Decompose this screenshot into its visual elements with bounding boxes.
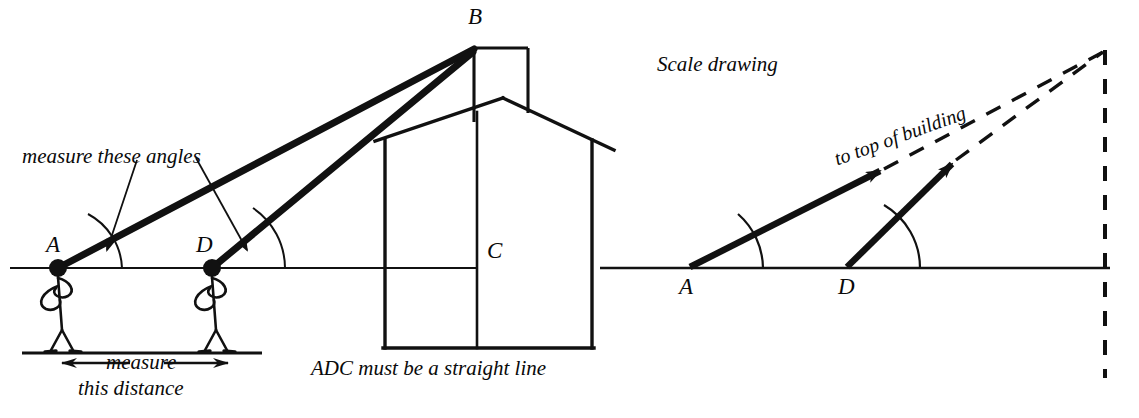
sight-line-D-to-B [212, 52, 473, 268]
scale-dashed-extension-D [956, 52, 1103, 160]
annotation-adc-straight-line: ADC must be a straight line [311, 356, 546, 381]
observer-D-leg-right [216, 330, 228, 352]
annotation-measure-word: measure [106, 350, 176, 375]
point-label-A: A [46, 232, 60, 258]
annotation-measure-these-angles: measure these angles [22, 144, 201, 169]
observer-D-arm-low [195, 286, 214, 310]
scale-drawing-title: Scale drawing [657, 52, 778, 77]
scale-point-label-D: D [838, 274, 855, 300]
observer-figure-D [195, 259, 235, 352]
observer-A-leg-left [50, 330, 62, 352]
observer-figure-A [41, 259, 81, 352]
observer-A-head [49, 259, 67, 277]
right-scale-drawing [600, 50, 1110, 378]
point-label-C: C [487, 238, 502, 264]
annotation-this-distance: this distance [78, 376, 184, 401]
observer-D-head [203, 259, 221, 277]
scale-point-label-A: A [679, 274, 693, 300]
roof-right-slope [503, 98, 614, 150]
scale-dashed-extension-A [884, 52, 1103, 169]
observer-D-leg-left [204, 330, 216, 352]
point-label-B: B [468, 4, 482, 30]
chimney [474, 48, 528, 122]
scale-sight-arrow-A [690, 171, 880, 267]
figure-canvas: A D B C measure these angles measure thi… [0, 0, 1139, 418]
observer-A-leg-right [62, 330, 74, 352]
left-field-sketch [10, 48, 614, 363]
building-outline [375, 98, 614, 348]
observer-A-arm-low [41, 286, 60, 310]
point-label-D: D [196, 232, 213, 258]
